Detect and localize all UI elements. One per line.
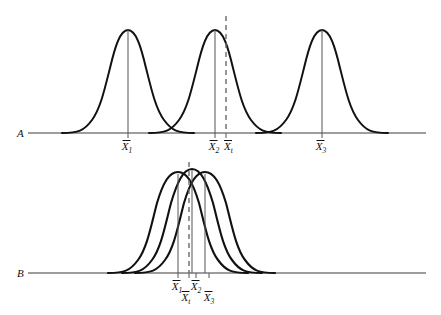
statistics-figure: A X1 bbox=[0, 0, 441, 315]
panel-a-label-x2: X2 bbox=[208, 140, 220, 155]
panel-a-label-x3-sub: 3 bbox=[321, 146, 326, 155]
svg-text:X1: X1 bbox=[171, 280, 182, 295]
svg-text:Xt: Xt bbox=[223, 140, 234, 155]
panel-a-label-xt: Xt bbox=[223, 140, 234, 155]
svg-text:Xt: Xt bbox=[181, 291, 192, 306]
panel-a-letter: A bbox=[16, 127, 24, 139]
svg-text:X2: X2 bbox=[208, 140, 220, 155]
panel-b-label-x3: X3 bbox=[203, 291, 215, 306]
panel-a-label-x2-sub: 2 bbox=[215, 146, 219, 155]
panel-a: A X1 bbox=[16, 16, 426, 155]
panel-b-label-x2: X2 bbox=[190, 280, 202, 295]
panel-b: B X1 bbox=[17, 162, 426, 306]
svg-text:X3: X3 bbox=[315, 140, 327, 155]
panel-a-label-x3: X3 bbox=[315, 140, 327, 155]
panel-b-letter: B bbox=[17, 267, 24, 279]
panel-b-label-x1: X1 bbox=[171, 280, 182, 295]
svg-text:X3: X3 bbox=[203, 291, 215, 306]
panel-a-label-x1: X1 bbox=[121, 140, 132, 155]
panel-b-label-xt: Xt bbox=[181, 291, 192, 306]
panel-b-label-x3-sub: 3 bbox=[209, 297, 214, 306]
panel-b-label-xt-sub: t bbox=[188, 297, 191, 306]
panel-a-label-xt-sub: t bbox=[231, 146, 234, 155]
panel-a-label-x1-sub: 1 bbox=[128, 146, 132, 155]
panel-b-label-x2-sub: 2 bbox=[197, 286, 201, 295]
svg-text:X2: X2 bbox=[190, 280, 202, 295]
svg-text:X1: X1 bbox=[121, 140, 132, 155]
